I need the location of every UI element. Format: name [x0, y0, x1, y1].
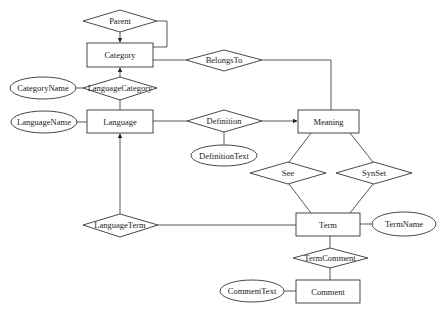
relationship-label: Definition: [207, 116, 243, 126]
connector-synset-term: [350, 184, 373, 213]
relationship-label: BelongsTo: [206, 55, 243, 65]
relationship-language-term[interactable]: LanguageTerm: [83, 214, 158, 237]
attribute-label: CommentText: [228, 286, 277, 296]
relationship-label: LanguageCategory: [88, 83, 153, 93]
connector-meaning-see: [289, 133, 311, 162]
relationship-label: See: [282, 168, 295, 178]
relationship-label: TermComment: [304, 253, 356, 263]
relationship-label: SynSet: [362, 168, 387, 178]
attribute-label: LanguageName: [17, 117, 71, 127]
attribute-comment-text[interactable]: CommentText: [220, 280, 284, 302]
attribute-label: DefinitionText: [199, 151, 250, 161]
entity-meaning[interactable]: Meaning: [298, 110, 359, 133]
connector-see-term: [289, 184, 311, 213]
connector-belongsto-meaning: [262, 60, 331, 110]
entity-label: Meaning: [313, 117, 344, 127]
relationship-see[interactable]: See: [250, 162, 326, 184]
relationship-definition[interactable]: Definition: [187, 110, 262, 132]
entity-category[interactable]: Category: [87, 43, 153, 67]
relationship-term-comment[interactable]: TermComment: [293, 248, 368, 268]
entity-term[interactable]: Term: [296, 213, 360, 236]
entity-comment[interactable]: Comment: [296, 280, 360, 303]
connector-parent-loop: [153, 21, 167, 47]
attribute-category-name[interactable]: CategoryName: [10, 77, 76, 99]
relationship-synset[interactable]: SynSet: [336, 162, 412, 184]
relationship-label: LanguageTerm: [94, 220, 146, 230]
relationship-parent[interactable]: Parent: [83, 10, 157, 32]
entity-language[interactable]: Language: [87, 110, 153, 133]
relationship-belongs-to[interactable]: BelongsTo: [186, 50, 262, 71]
er-diagram: Category Language Meaning Term Comment P…: [0, 0, 443, 310]
attribute-definition-text[interactable]: DefinitionText: [191, 145, 257, 166]
attribute-label: TermName: [385, 219, 423, 229]
relationship-language-category[interactable]: LanguageCategory: [83, 77, 157, 100]
attribute-label: CategoryName: [17, 83, 69, 93]
entity-label: Category: [104, 50, 136, 60]
entity-label: Language: [103, 117, 137, 127]
entity-label: Comment: [311, 287, 345, 297]
entity-label: Term: [319, 220, 337, 230]
attribute-term-name[interactable]: TermName: [372, 212, 436, 236]
relationship-label: Parent: [109, 16, 131, 26]
attribute-language-name[interactable]: LanguageName: [11, 111, 77, 133]
connector-meaning-synset: [350, 133, 373, 162]
